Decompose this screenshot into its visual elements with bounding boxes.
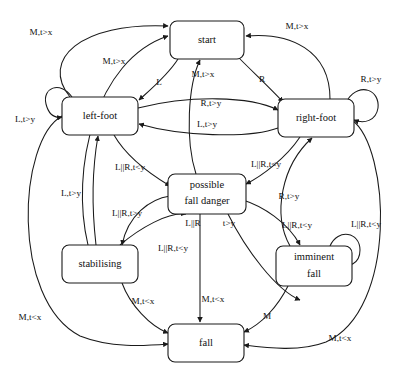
edge-label-imminent-fall-to-right-foot: R,t>y (279, 191, 300, 201)
edge-label-stabilising-to-fall: M,t<x (132, 296, 155, 306)
edge-label-pfd-to-stabilising: L||R,t>y (112, 208, 142, 218)
state-node-imminent-fall[interactable]: imminent fall (276, 246, 352, 286)
edge-label-stabilising-to-left-foot: L,t>y (61, 188, 82, 198)
edge-label-right-foot-to-fall: M,t<x (329, 333, 352, 343)
edge-right-foot-to-start (246, 35, 330, 99)
edge-label-right-foot-self-loop: R,t>y (361, 74, 382, 84)
edge-label-pfd-to-imminent-fall: L||R,t<y (282, 220, 312, 230)
state-label-stabilising: stabilising (78, 258, 122, 269)
state-label-possible-fall-danger-line2: fall danger (184, 195, 230, 206)
edge-label-right-foot-to-pfd: L||R,t<y (251, 159, 281, 169)
edge-label-imminent-fall-self-loop: L||R,t<y (351, 219, 381, 229)
state-label-imminent-fall-line2: fall (307, 268, 321, 279)
edge-label-stabilising-to-start: M,t>x (103, 56, 126, 66)
edge-label-imminent-fall-to-fall: M (263, 311, 271, 321)
edge-label-left-foot-to-fall: M,t<x (19, 312, 42, 322)
edge-label-left-foot-to-start: M,t>x (30, 27, 53, 37)
state-label-imminent-fall-line1: imminent (294, 251, 334, 262)
edge-label-right-foot-to-left-foot: L,t>y (197, 119, 218, 129)
edge-label-stabilising-to-pfd: L||R,t<y (158, 243, 188, 253)
state-node-left-foot[interactable]: left-foot (62, 97, 138, 135)
state-label-right-foot: right-foot (296, 112, 336, 123)
edge-label-pfd-to-start: M,t>x (192, 69, 215, 79)
state-machine-diagram: start left-foot right-foot possible fall… (0, 0, 401, 378)
edge-label-pfd-to-fall-vertical: M,t<x (202, 294, 225, 304)
edge-left-foot-to-fall (28, 116, 168, 346)
edge-label-left-foot-to-pfd: L||R,t<y (115, 162, 145, 172)
edge-label-left-foot-self-loop: L,t>y (15, 114, 36, 124)
state-label-fall: fall (199, 337, 213, 348)
state-node-right-foot[interactable]: right-foot (278, 99, 354, 137)
state-node-stabilising[interactable]: stabilising (62, 245, 138, 283)
edge-label-pfd-to-fall-curve-part2: t>y (223, 218, 236, 228)
state-label-possible-fall-danger-line1: possible (190, 179, 225, 190)
state-label-start: start (198, 34, 216, 45)
edge-stabilising-to-fall (122, 283, 168, 333)
edge-imminent-fall-to-fall (244, 286, 288, 332)
state-node-fall[interactable]: fall (168, 324, 244, 362)
fsm-canvas: start left-foot right-foot possible fall… (0, 0, 401, 378)
edge-label-right-foot-to-start: M,t>x (286, 21, 309, 31)
edge-left-foot-to-pfd (114, 135, 170, 186)
edge-label-start-to-right-foot: R (259, 74, 266, 84)
state-node-start[interactable]: start (170, 21, 244, 59)
edge-label-left-foot-to-right-foot: R,t>y (201, 98, 222, 108)
edge-label-pfd-to-fall-curve-part1: L||R (185, 218, 201, 228)
edge-label-start-to-left-foot: L (156, 77, 162, 87)
edge-stabilising-to-left-foot (93, 136, 98, 245)
edge-stabilising-to-pfd (120, 214, 186, 245)
state-node-possible-fall-danger[interactable]: possible fall danger (168, 174, 246, 214)
state-label-left-foot: left-foot (83, 110, 117, 121)
